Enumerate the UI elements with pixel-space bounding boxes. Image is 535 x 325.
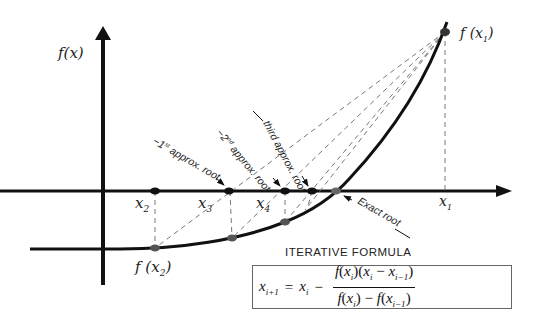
formula-equals: =	[285, 279, 293, 296]
label-x4: x4	[256, 194, 270, 214]
y-axis-arrow-icon	[95, 26, 111, 40]
point-f-x3	[227, 235, 237, 242]
annotation-exact-root: Exact root	[344, 194, 410, 238]
point-x4	[280, 188, 290, 195]
y-axis-label: f(x)	[57, 44, 84, 62]
point-f-x4	[280, 219, 290, 226]
label-f-x1: f (x1)	[459, 25, 494, 44]
formula-title: ITERATIVE FORMULA	[285, 246, 412, 258]
x-axis-arrow-icon	[496, 185, 512, 197]
point-f-x1	[440, 28, 450, 36]
annotation-first-approx: −1st approx. root	[151, 134, 224, 185]
formula-numerator: f(xi)(xi − xi−1)	[333, 262, 415, 288]
point-f-x2	[150, 245, 160, 252]
formula-lhs: xi+1	[259, 278, 279, 297]
label-x1: x1	[439, 193, 452, 212]
point-x3	[224, 188, 234, 195]
label-f-x2: f (x2)	[134, 258, 171, 278]
label-x3: x3	[198, 194, 212, 214]
svg-text:Exact root: Exact root	[356, 194, 404, 229]
y-axis	[95, 26, 111, 285]
formula-rhs-var: xi	[299, 278, 308, 297]
point-exact-root	[331, 188, 341, 195]
point-x2	[150, 188, 160, 195]
svg-text:−1st approx. root: −1st approx. root	[151, 134, 223, 183]
iterative-formula: xi+1 = xi − f(xi)(xi − xi−1) f(xi) − f(x…	[252, 265, 512, 309]
label-x2: x2	[135, 194, 149, 214]
formula-denominator: f(xi) − f(xi−1)	[335, 288, 412, 313]
formula-fraction: f(xi)(xi − xi−1) f(xi) − f(xi−1)	[333, 262, 415, 313]
formula-minus: −	[314, 279, 322, 296]
